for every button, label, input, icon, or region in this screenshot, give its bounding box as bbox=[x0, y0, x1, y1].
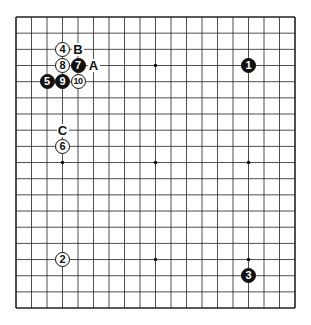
white-stone-8: 8 bbox=[55, 58, 70, 73]
black-stone-7: 7 bbox=[71, 58, 86, 73]
go-board bbox=[0, 0, 311, 325]
black-stone-5: 5 bbox=[40, 74, 55, 89]
white-stone-2: 2 bbox=[55, 252, 70, 267]
marker-c: C bbox=[57, 124, 69, 137]
star-point bbox=[154, 64, 158, 68]
black-stone-1: 1 bbox=[241, 58, 256, 73]
star-point bbox=[61, 161, 65, 165]
marker-a: A bbox=[88, 59, 100, 72]
star-point bbox=[154, 258, 158, 262]
star-point bbox=[154, 161, 158, 165]
star-point bbox=[247, 161, 251, 165]
star-point bbox=[247, 258, 251, 262]
marker-b: B bbox=[72, 43, 84, 56]
white-stone-4: 4 bbox=[55, 42, 70, 57]
white-stone-6: 6 bbox=[55, 139, 70, 154]
white-stone-10: 10 bbox=[71, 74, 86, 89]
